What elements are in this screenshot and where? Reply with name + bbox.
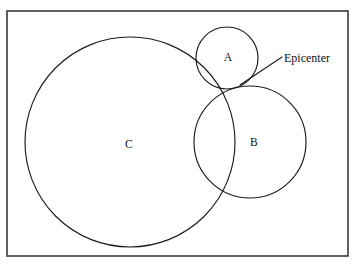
circle-label-b: B [250, 136, 258, 148]
circle-label-c: C [125, 138, 133, 150]
diagram-canvas: A B C Epicenter [0, 0, 359, 267]
epicenter-label: Epicenter [284, 51, 330, 65]
circle-label-a: A [224, 51, 233, 63]
epicenter-leader-line [240, 57, 282, 85]
epicenter-diagram: A B C Epicenter [0, 0, 359, 267]
